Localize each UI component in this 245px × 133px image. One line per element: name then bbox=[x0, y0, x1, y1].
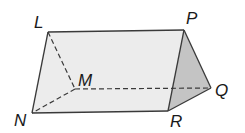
label-r: R bbox=[170, 112, 182, 131]
face-lprn bbox=[32, 30, 184, 113]
label-p: P bbox=[186, 9, 198, 28]
prism-diagram: L P M Q N R bbox=[0, 0, 245, 133]
label-l: L bbox=[34, 13, 43, 32]
label-m: M bbox=[78, 71, 93, 90]
prism-svg: L P M Q N R bbox=[0, 0, 245, 133]
label-q: Q bbox=[215, 81, 228, 100]
label-n: N bbox=[14, 111, 27, 130]
